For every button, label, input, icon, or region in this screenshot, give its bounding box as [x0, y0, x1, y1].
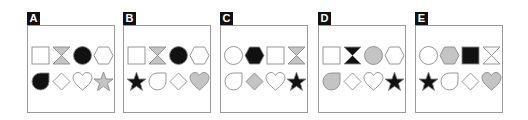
- option-label: E: [415, 12, 428, 25]
- diamond-white-icon: [342, 70, 363, 92]
- option-box[interactable]: [415, 25, 503, 113]
- hexagon-white-icon: [189, 44, 210, 66]
- shape-grid: [223, 44, 307, 96]
- option-label: A: [27, 12, 40, 25]
- hourglass-gray-icon: [286, 44, 307, 66]
- circle-black-icon: [72, 44, 93, 66]
- hexagon-white-icon: [93, 44, 114, 66]
- shape-grid: [30, 44, 114, 96]
- square-white-icon: [265, 44, 286, 66]
- diamond-gray-icon: [244, 70, 265, 92]
- option-panel-e[interactable]: E: [415, 12, 503, 113]
- shape-row: [30, 70, 114, 92]
- star-black-icon: [126, 70, 147, 92]
- square-white-icon: [321, 44, 342, 66]
- diamond-white-icon: [51, 70, 72, 92]
- star-black-icon: [384, 70, 405, 92]
- square-white-icon: [30, 44, 51, 66]
- diamond-white-icon: [460, 70, 481, 92]
- option-box[interactable]: [27, 25, 115, 113]
- heart-gray-icon: [481, 70, 502, 92]
- hexagon-black-icon: [244, 44, 265, 66]
- square-black-icon: [460, 44, 481, 66]
- option-panel-c[interactable]: C: [220, 12, 308, 113]
- teardrop-black-icon: [30, 70, 51, 92]
- star-gray-icon: [93, 70, 114, 92]
- hourglass-white-icon: [481, 44, 502, 66]
- shape-row: [418, 70, 502, 92]
- shape-grid: [418, 44, 502, 96]
- shape-row: [223, 44, 307, 66]
- hexagon-white-icon: [384, 44, 405, 66]
- option-panel-a[interactable]: A: [27, 12, 115, 113]
- circle-gray-icon: [363, 44, 384, 66]
- shape-grid: [126, 44, 210, 96]
- heart-gray-icon: [189, 70, 210, 92]
- option-box[interactable]: [123, 25, 211, 113]
- circle-white-icon: [223, 44, 244, 66]
- hourglass-gray-icon: [51, 44, 72, 66]
- teardrop-white-icon: [147, 70, 168, 92]
- option-label: C: [220, 12, 233, 25]
- option-label: D: [318, 12, 331, 25]
- hourglass-black-icon: [342, 44, 363, 66]
- option-panel-b[interactable]: B: [123, 12, 211, 113]
- hourglass-gray-icon: [147, 44, 168, 66]
- shape-row: [126, 44, 210, 66]
- heart-white-icon: [363, 70, 384, 92]
- circle-black-icon: [168, 44, 189, 66]
- teardrop-white-icon: [223, 70, 244, 92]
- shape-row: [223, 70, 307, 92]
- teardrop-white-icon: [439, 70, 460, 92]
- shape-row: [30, 44, 114, 66]
- shape-row: [321, 44, 405, 66]
- heart-white-icon: [72, 70, 93, 92]
- option-box[interactable]: [220, 25, 308, 113]
- diamond-white-icon: [168, 70, 189, 92]
- star-black-icon: [286, 70, 307, 92]
- option-label: B: [123, 12, 136, 25]
- shape-row: [321, 70, 405, 92]
- shape-row: [126, 70, 210, 92]
- heart-white-icon: [265, 70, 286, 92]
- hexagon-gray-icon: [439, 44, 460, 66]
- shape-grid: [321, 44, 405, 96]
- circle-white-icon: [418, 44, 439, 66]
- option-box[interactable]: [318, 25, 406, 113]
- teardrop-gray-icon: [321, 70, 342, 92]
- option-panel-d[interactable]: D: [318, 12, 406, 113]
- square-white-icon: [126, 44, 147, 66]
- shape-row: [418, 44, 502, 66]
- star-black-icon: [418, 70, 439, 92]
